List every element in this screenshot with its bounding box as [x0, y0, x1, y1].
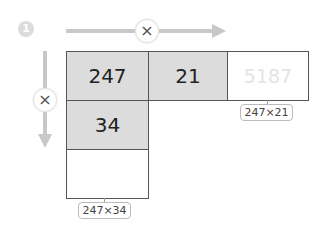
cell-product-5187: 5187 — [227, 51, 309, 101]
cell-product-empty — [66, 149, 149, 199]
step-number-badge: 1 — [18, 21, 34, 37]
right-arrow-icon — [212, 24, 226, 38]
multiply-icon-vertical: × — [33, 88, 57, 112]
cell-multiplier-34: 34 — [66, 100, 149, 150]
cell-multiplier-21: 21 — [148, 51, 228, 101]
label-247x34: 247×34 — [78, 202, 131, 219]
down-arrow-icon — [38, 134, 52, 148]
label-247x21: 247×21 — [240, 104, 293, 121]
multiply-icon-horizontal: × — [135, 19, 159, 43]
cell-multiplicand: 247 — [66, 51, 149, 101]
